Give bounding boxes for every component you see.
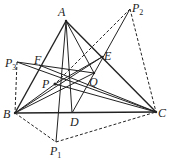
point-label-p3: P3 <box>5 57 16 72</box>
point-label-p: P <box>42 78 49 90</box>
point-label-p1: P1 <box>50 145 61 160</box>
point-label-p2: P2 <box>132 2 143 17</box>
point-label-a: A <box>58 6 65 18</box>
point-label-b: B <box>3 108 10 120</box>
point-label-c: C <box>158 107 166 119</box>
point-label-q: Q <box>89 76 98 88</box>
point-label-e: E <box>104 50 111 62</box>
point-label-d: D <box>70 116 79 128</box>
geometry-diagram: ABCDEFPQP1P2P3 <box>0 0 169 161</box>
diagram-canvas <box>0 0 169 161</box>
point-label-f: F <box>34 54 41 66</box>
